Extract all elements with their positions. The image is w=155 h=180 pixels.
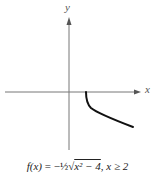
caption-domain: x ≥ 2 (106, 160, 128, 172)
x-axis-label: x (145, 83, 150, 95)
y-axis-arrow-icon (67, 17, 72, 25)
function-caption: f(x) = −½√x² − 4, x ≥ 2 (0, 160, 155, 172)
caption-fraction: ½ (60, 160, 68, 172)
caption-equals: = − (42, 160, 60, 172)
caption-radicand: x² − 4 (74, 160, 101, 172)
function-curve (86, 92, 133, 127)
function-graph (0, 0, 155, 180)
y-axis-label: y (65, 1, 70, 13)
x-axis-arrow-icon (134, 90, 141, 95)
caption-function-name: f(x) (27, 160, 42, 172)
